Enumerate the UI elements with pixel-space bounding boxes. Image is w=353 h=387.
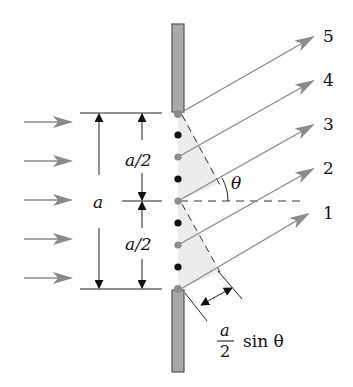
theta-label: θ — [231, 173, 241, 193]
ray-4 — [178, 81, 313, 157]
half-width-label-bottom-text: a/2 — [125, 234, 152, 254]
extension-line-upper — [218, 271, 242, 299]
ray-label-4: 4 — [323, 70, 334, 90]
single-slit-diffraction-diagram: a a/2 a/2 θ 5 4 3 2 1 — [0, 0, 353, 387]
fraction-numerator: a — [220, 321, 230, 340]
source-point-black — [174, 175, 181, 182]
ray-label-5: 5 — [323, 26, 334, 46]
theta-arc — [222, 178, 228, 201]
source-point-gray — [174, 110, 182, 118]
barrier-bottom — [172, 290, 184, 372]
ray-label-2: 2 — [323, 158, 334, 178]
barrier-top — [172, 24, 184, 112]
half-width-label-top-text: a/2 — [125, 150, 152, 170]
path-difference-arrow-a — [217, 288, 232, 296]
incoming-wave-arrows — [24, 122, 71, 278]
half-width-label-top: a/2 — [125, 150, 152, 170]
extension-line-lower — [185, 293, 207, 321]
half-width-label-bottom: a/2 — [125, 234, 152, 254]
shade-upper-half — [178, 113, 220, 201]
shade-lower-half — [178, 201, 220, 289]
source-point-black — [174, 263, 181, 270]
ray-label-1: 1 — [323, 203, 334, 223]
slit-width-label: a — [93, 192, 103, 212]
ray-label-3: 3 — [323, 114, 334, 134]
source-point-gray — [174, 285, 182, 293]
sin-theta-text: sin θ — [243, 331, 284, 351]
ray-5 — [182, 37, 313, 112]
source-point-gray — [174, 153, 181, 160]
source-point-black — [174, 219, 181, 226]
source-point-black — [174, 131, 181, 138]
fraction-denominator: 2 — [220, 342, 230, 361]
source-point-gray — [174, 241, 181, 248]
path-difference-label: a 2 sin θ — [217, 321, 284, 361]
source-point-gray — [174, 197, 181, 204]
path-difference-arrow-b — [201, 296, 217, 305]
